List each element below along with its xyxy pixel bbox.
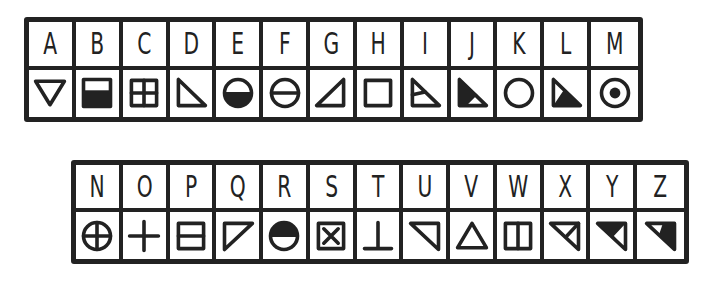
cipher-letter: P	[185, 172, 197, 202]
letter-cell-e: E	[216, 22, 263, 70]
letter-cell-p: P	[170, 165, 217, 212]
letter-cell-w: W	[497, 165, 544, 212]
circle-horizontal-bar-icon	[267, 75, 303, 111]
symbol-cell-m	[591, 70, 638, 118]
circle-top-filled-icon	[266, 218, 302, 254]
letter-cell-b: B	[76, 22, 123, 70]
cipher-letter: V	[465, 172, 479, 202]
symbol-cell-e	[216, 70, 263, 118]
letter-cell-d: D	[170, 22, 217, 70]
symbol-cell-s	[310, 212, 357, 259]
letter-cell-o: O	[123, 165, 170, 212]
circle-outline-icon	[501, 75, 537, 111]
symbol-cell-n	[76, 212, 123, 259]
cipher-letter: B	[90, 29, 104, 59]
symbol-cell-r	[263, 212, 310, 259]
square-x-icon	[313, 218, 349, 254]
symbol-cell-p	[170, 212, 217, 259]
symbol-cell-h	[357, 70, 404, 118]
cipher-grid-top: ABCDEFGHIJKLM	[24, 17, 643, 122]
symbol-cell-y	[590, 212, 637, 259]
right-triangle-filled-top-icon	[454, 75, 490, 111]
cipher-letter: J	[469, 29, 475, 59]
cipher-letter: U	[417, 172, 432, 202]
right-triangle-outline-icon	[173, 75, 209, 111]
letter-cell-t: T	[357, 165, 404, 212]
cipher-letter: F	[279, 29, 291, 59]
letter-cell-s: S	[310, 165, 357, 212]
cipher-letter: X	[558, 172, 572, 202]
circle-bottom-filled-icon	[220, 75, 256, 111]
symbol-cell-g	[310, 70, 357, 118]
letter-cell-f: F	[263, 22, 310, 70]
symbol-cell-b	[76, 70, 123, 118]
cipher-grid-bottom: NOPQRSTUVWXYZ	[71, 160, 689, 264]
cipher-letter: E	[231, 29, 244, 59]
triangle-down-outline-icon	[32, 75, 68, 111]
right-triangle-filled-bottom-icon	[548, 75, 584, 111]
right-triangle-mirrored-outline-icon	[313, 75, 349, 111]
square-vertical-bar-icon	[500, 218, 536, 254]
symbol-cell-d	[170, 70, 217, 118]
cipher-letter: O	[136, 172, 152, 202]
symbol-cell-z	[637, 212, 684, 259]
cipher-letter: A	[43, 29, 57, 59]
symbol-cell-t	[357, 212, 404, 259]
letter-cell-r: R	[263, 165, 310, 212]
symbol-cell-u	[403, 212, 450, 259]
circle-dot-icon	[597, 75, 633, 111]
cipher-letter: Z	[654, 172, 668, 202]
square-outline-icon	[360, 75, 396, 111]
cipher-letter: D	[183, 29, 199, 59]
letter-cell-n: N	[76, 165, 123, 212]
symbol-cell-v	[450, 212, 497, 259]
symbol-cell-j	[451, 70, 498, 118]
triangle-top-left-outline-icon	[220, 218, 256, 254]
letter-cell-k: K	[497, 22, 544, 70]
circle-cross-icon	[79, 218, 115, 254]
symbol-cell-f	[263, 70, 310, 118]
right-triangle-split-icon	[407, 75, 443, 111]
cipher-letter: M	[606, 29, 623, 59]
symbol-cell-l	[544, 70, 591, 118]
square-bottom-filled-icon	[79, 75, 115, 111]
plus-icon	[126, 218, 162, 254]
letter-cell-j: J	[451, 22, 498, 70]
letter-cell-q: Q	[216, 165, 263, 212]
cipher-letter: W	[508, 172, 528, 202]
letter-cell-c: C	[123, 22, 170, 70]
cipher-letter: N	[90, 172, 105, 202]
triangle-top-right-split-icon	[547, 218, 583, 254]
triangle-up-outline-icon	[454, 218, 490, 254]
symbol-cell-i	[404, 70, 451, 118]
letter-cell-z: Z	[637, 165, 684, 212]
triangle-top-right-outline-icon	[407, 218, 443, 254]
cipher-letter: T	[372, 172, 384, 202]
letter-cell-u: U	[403, 165, 450, 212]
cipher-letter: G	[324, 29, 340, 59]
triangle-top-right-filled-right-icon	[643, 218, 679, 254]
cipher-letter: S	[325, 172, 338, 202]
symbol-cell-q	[216, 212, 263, 259]
cipher-letter: R	[277, 172, 291, 202]
letter-cell-m: M	[591, 22, 638, 70]
symbol-cell-x	[544, 212, 591, 259]
letter-cell-x: X	[544, 165, 591, 212]
cipher-letter: K	[512, 29, 525, 59]
symbol-cell-a	[29, 70, 76, 118]
letter-cell-y: Y	[590, 165, 637, 212]
cipher-letter: I	[422, 29, 428, 59]
symbol-cell-c	[123, 70, 170, 118]
letter-cell-v: V	[450, 165, 497, 212]
cipher-letter: Y	[606, 172, 618, 202]
letter-cell-g: G	[310, 22, 357, 70]
cipher-letter: C	[137, 29, 151, 59]
letter-cell-h: H	[357, 22, 404, 70]
letter-cell-l: L	[544, 22, 591, 70]
cipher-letter: Q	[230, 172, 246, 202]
cipher-letter: H	[371, 29, 386, 59]
letter-cell-i: I	[404, 22, 451, 70]
cipher-letter: L	[560, 29, 571, 59]
triangle-top-right-filled-left-icon	[594, 218, 630, 254]
letter-cell-a: A	[29, 22, 76, 70]
